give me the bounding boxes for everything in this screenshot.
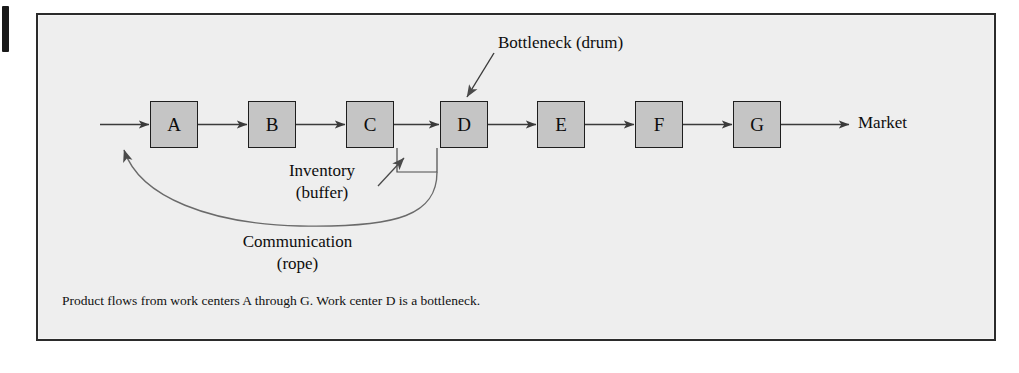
work-center-c[interactable]: C	[346, 101, 394, 148]
diagram-vector-layer	[0, 0, 1019, 373]
bottleneck-pointer	[467, 53, 494, 97]
inventory-label-line1: Inventory	[267, 160, 377, 182]
inventory-label: Inventory (buffer)	[267, 160, 377, 204]
work-center-f-label: F	[654, 115, 665, 134]
market-label: Market	[858, 113, 907, 133]
work-center-g-label: G	[750, 115, 764, 134]
communication-label-line1: Communication	[205, 231, 390, 253]
work-center-e[interactable]: E	[537, 101, 585, 148]
work-center-f[interactable]: F	[635, 101, 683, 148]
work-center-d-label: D	[457, 115, 471, 134]
bottleneck-label: Bottleneck (drum)	[498, 33, 623, 53]
work-center-b-label: B	[266, 115, 279, 134]
work-center-a[interactable]: A	[150, 101, 198, 148]
communication-label: Communication (rope)	[205, 231, 390, 275]
work-center-e-label: E	[555, 115, 567, 134]
work-center-g[interactable]: G	[733, 101, 781, 148]
inventory-label-line2: (buffer)	[267, 182, 377, 204]
work-center-d[interactable]: D	[440, 101, 488, 148]
figure-caption: Product flows from work centers A throug…	[62, 293, 480, 309]
figure-stage: A B C D E F G Bottleneck (drum) Market I…	[0, 0, 1019, 373]
communication-label-line2: (rope)	[205, 253, 390, 275]
work-center-c-label: C	[364, 115, 377, 134]
work-center-b[interactable]: B	[248, 101, 296, 148]
work-center-a-label: A	[167, 115, 181, 134]
